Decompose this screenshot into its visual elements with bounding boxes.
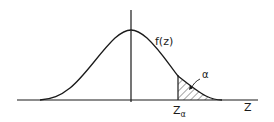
critical-value-subscript: α xyxy=(181,110,186,119)
curve-label: f(z) xyxy=(155,35,173,48)
tail-area-label: α xyxy=(202,69,209,80)
x-axis-label: Z xyxy=(244,101,252,114)
critical-value-label: Zα xyxy=(173,104,186,119)
normal-curve-diagram: f(z) α Zα Z xyxy=(0,0,274,122)
